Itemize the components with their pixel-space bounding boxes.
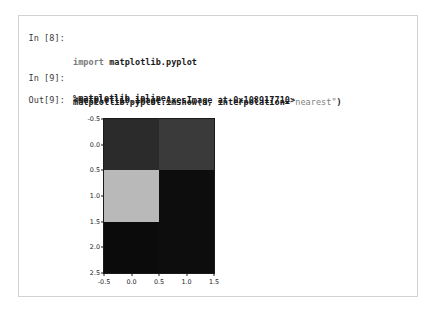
heatmap-cell-r0-c1 bbox=[159, 119, 214, 170]
heatmap-cell-r2-c0 bbox=[104, 222, 159, 273]
x-tick-mark-3 bbox=[186, 273, 187, 276]
y-tick-mark-3 bbox=[101, 196, 104, 197]
y-tick-mark-0 bbox=[101, 119, 104, 120]
y-tick-label-5: 2.0 bbox=[90, 244, 100, 251]
cell-output-text: <matplotlib.image.AxesImage at 0x1089177… bbox=[73, 94, 295, 106]
y-tick-label-4: 1.5 bbox=[90, 218, 100, 225]
heatmap-cell-r2-c1 bbox=[159, 222, 214, 273]
x-tick-label-1: 0.0 bbox=[126, 279, 136, 286]
heatmap-cell-r0-c0 bbox=[104, 119, 159, 170]
y-tick-label-6: 2.5 bbox=[90, 270, 100, 277]
keyword-import: import bbox=[73, 57, 104, 67]
x-tick-label-3: 1.0 bbox=[181, 279, 191, 286]
heatmap-cell-r1-c0 bbox=[104, 170, 159, 221]
matplotlib-figure: -0.50.00.51.01.52.02.5-0.50.00.51.01.5 bbox=[75, 111, 275, 286]
y-tick-mark-2 bbox=[101, 170, 104, 171]
notebook-cell-out-9: Out[9]: <matplotlib.image.AxesImage at 0… bbox=[19, 94, 417, 106]
code-line-1: import matplotlib.pyplot bbox=[73, 56, 417, 68]
notebook-panel: In [8]: import matplotlib.pyplot %matplo… bbox=[18, 15, 418, 297]
heatmap-image bbox=[104, 119, 214, 273]
module-path: matplotlib.pyplot bbox=[104, 57, 197, 67]
y-tick-mark-5 bbox=[101, 247, 104, 248]
cell-prompt-in-8: In [8]: bbox=[19, 32, 73, 44]
x-tick-mark-1 bbox=[131, 273, 132, 276]
x-tick-label-4: 1.5 bbox=[209, 279, 219, 286]
cell-prompt-in-9: In [9]: bbox=[19, 72, 73, 84]
x-tick-mark-4 bbox=[214, 273, 215, 276]
y-tick-label-3: 1.0 bbox=[90, 193, 100, 200]
heatmap-cell-r1-c1 bbox=[159, 170, 214, 221]
y-tick-mark-1 bbox=[101, 144, 104, 145]
x-tick-label-0: -0.5 bbox=[98, 279, 110, 286]
y-tick-mark-4 bbox=[101, 221, 104, 222]
screenshot-root: In [8]: import matplotlib.pyplot %matplo… bbox=[0, 0, 438, 311]
plot-axes bbox=[103, 118, 215, 274]
x-tick-label-2: 0.5 bbox=[154, 279, 164, 286]
x-tick-mark-2 bbox=[159, 273, 160, 276]
y-tick-label-2: 0.5 bbox=[90, 167, 100, 174]
x-tick-mark-0 bbox=[104, 273, 105, 276]
y-tick-label-0: -0.5 bbox=[88, 116, 100, 123]
y-tick-label-1: 0.0 bbox=[90, 141, 100, 148]
cell-prompt-out-9: Out[9]: bbox=[19, 94, 73, 106]
